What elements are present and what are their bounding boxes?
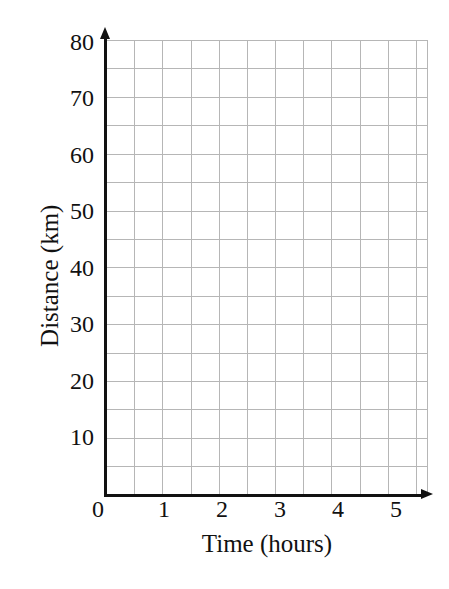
x-axis-title: Time (hours)	[106, 530, 428, 558]
y-axis-title: Distance (km)	[36, 46, 64, 506]
x-tick-label-1: 1	[144, 497, 184, 521]
y-axis-arrowhead-icon	[100, 27, 110, 39]
origin-tick-label-0: 0	[78, 497, 118, 521]
grid-top-edge-line	[106, 40, 428, 41]
x-tick-label-5: 5	[376, 497, 416, 521]
plot-grid-area[interactable]	[106, 40, 428, 495]
x-tick-label-4: 4	[318, 497, 358, 521]
distance-time-graph: 80 70 60 50 40 30 20 10 0 1 2 3 4 5 Time…	[0, 0, 449, 589]
x-tick-label-2: 2	[202, 497, 242, 521]
y-axis-line	[104, 38, 107, 497]
grid-right-edge-line	[427, 40, 428, 495]
x-tick-label-3: 3	[260, 497, 300, 521]
x-axis-arrowhead-icon	[421, 489, 433, 499]
